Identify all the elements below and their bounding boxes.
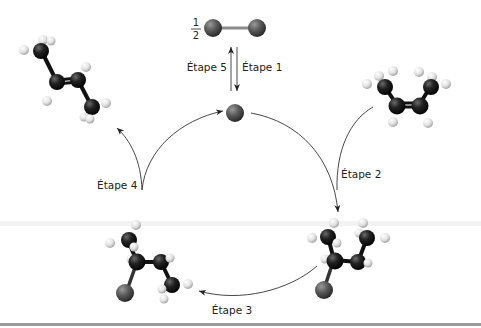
step5-label: Étape 5 — [187, 61, 227, 73]
step3-label: Étape 3 — [212, 304, 252, 316]
fraction-numerator: 1 — [193, 17, 199, 28]
step4-label: Étape 4 — [97, 179, 138, 191]
cis-2-butene-molecule — [362, 66, 451, 128]
cycle-arc-step3 — [199, 266, 317, 296]
step1-label: Étape 1 — [242, 61, 282, 73]
halogen-atom — [204, 19, 222, 37]
dihalogen-molecule — [204, 19, 266, 37]
halobutyl-radical-a-molecule — [307, 218, 390, 299]
cycle-arc-step2 — [251, 113, 338, 212]
cycle-arc-step4 — [142, 111, 223, 190]
background-band — [0, 221, 481, 226]
step2-label: Étape 2 — [341, 168, 381, 180]
bottom-rule — [0, 323, 481, 326]
radical-cycle-diagram: 1 2 Étape 5 Étape 1 Étape 2 Étape 3 Étap… — [0, 0, 481, 328]
fraction-one-half: 1 2 — [191, 17, 201, 41]
fraction-denominator: 2 — [193, 30, 199, 41]
halobutyl-radical-b-molecule — [105, 220, 193, 304]
halogen-radical-atom — [226, 104, 244, 122]
halogen-atom — [248, 19, 266, 37]
trans-2-butene-molecule — [19, 35, 111, 124]
